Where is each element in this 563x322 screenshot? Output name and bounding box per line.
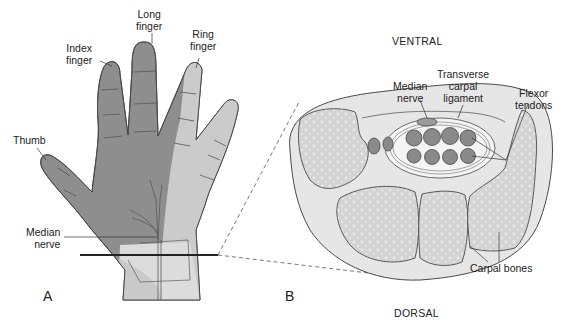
label-line: finger [190, 40, 216, 52]
median-nerve-shape [417, 118, 437, 126]
label-index-finger: Index finger [66, 42, 92, 66]
orientation-ventral: VENTRAL [392, 35, 443, 47]
label-line: Median [26, 226, 60, 238]
label-flexor-tendons: Flexor tendons [515, 87, 552, 111]
label-line: Transverse [437, 68, 489, 80]
label-line: Ring [190, 28, 216, 40]
label-median-nerve-b: Median nerve [393, 80, 427, 104]
label-line: finger [136, 20, 162, 32]
hand [41, 40, 250, 322]
label-thumb: Thumb [13, 134, 46, 146]
label-line: carpal [437, 80, 489, 92]
label-line: ligament [437, 92, 489, 104]
label-carpal-bones: Carpal bones [470, 262, 532, 274]
orientation-dorsal: DORSAL [394, 307, 439, 319]
label-line: Median [393, 80, 427, 92]
label-line: tendons [515, 99, 552, 111]
label-line: finger [66, 54, 92, 66]
label-line: Long [136, 8, 162, 20]
label-line: nerve [393, 92, 427, 104]
label-line: Flexor [515, 87, 552, 99]
label-median-nerve-a: Median nerve [26, 226, 60, 250]
panel-letter-a: A [43, 288, 52, 304]
label-line: Index [66, 42, 92, 54]
cross-section [290, 84, 553, 281]
label-ring-finger: Ring finger [190, 28, 216, 52]
label-long-finger: Long finger [136, 8, 162, 32]
label-transverse-carpal-ligament: Transverse carpal ligament [437, 68, 489, 104]
label-line: nerve [26, 238, 60, 250]
panel-letter-b: B [285, 288, 294, 304]
